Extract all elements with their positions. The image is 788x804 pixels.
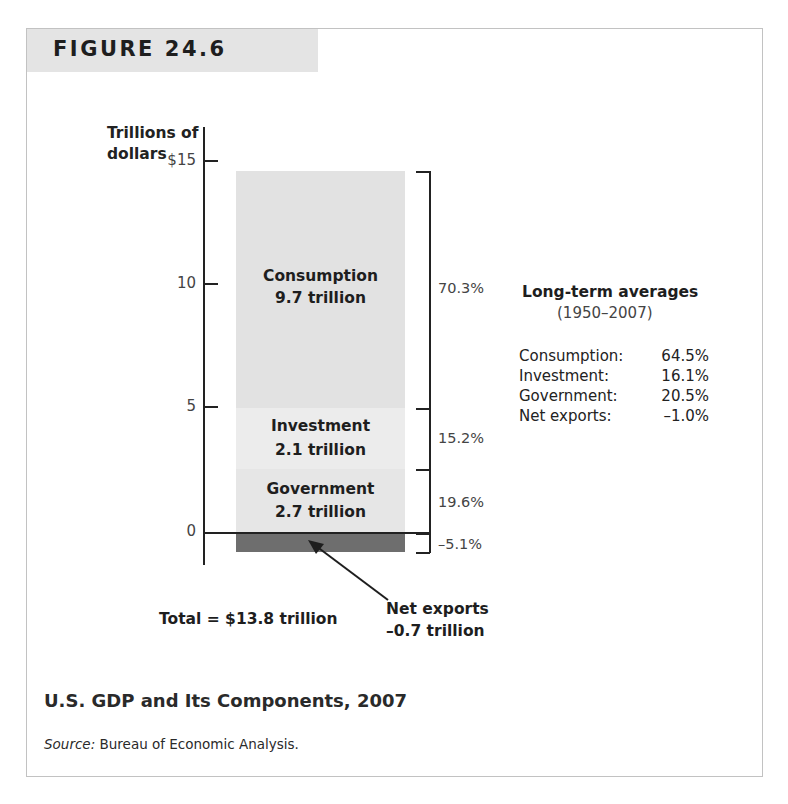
source-text: Bureau of Economic Analysis. xyxy=(95,736,299,752)
long-term-row-name: Consumption: xyxy=(519,346,637,366)
long-term-row: Net exports: –1.0% xyxy=(519,406,709,426)
long-term-row-name: Investment: xyxy=(519,366,637,386)
net-exports-annotation: Net exports –0.7 trillion xyxy=(386,598,489,642)
long-term-table: Consumption: 64.5% Investment: 16.1% Gov… xyxy=(519,346,709,426)
bar-segment-investment: Investment 2.1 trillion xyxy=(236,408,405,469)
long-term-row-value: 64.5% xyxy=(637,346,709,366)
long-term-row: Investment: 16.1% xyxy=(519,366,709,386)
y-tick-10 xyxy=(203,283,218,285)
government-value: 2.7 trillion xyxy=(236,501,405,523)
total-label: Total = $13.8 trillion xyxy=(159,610,338,628)
consumption-name: Consumption xyxy=(236,265,405,287)
bracket-tick-top xyxy=(416,171,430,173)
pct-net-exports: –5.1% xyxy=(438,536,482,552)
bracket-tick-zero xyxy=(416,533,430,535)
pct-government: 19.6% xyxy=(438,494,484,510)
y-tick-label-10: 10 xyxy=(146,274,196,292)
source-prefix: Source: xyxy=(44,736,95,752)
long-term-row-value: 16.1% xyxy=(637,366,709,386)
long-term-row-name: Net exports: xyxy=(519,406,637,426)
pct-consumption: 70.3% xyxy=(438,280,484,296)
investment-value: 2.1 trillion xyxy=(236,439,405,461)
long-term-row: Consumption: 64.5% xyxy=(519,346,709,366)
net-exports-value: –0.7 trillion xyxy=(386,620,489,642)
y-tick-15 xyxy=(203,160,218,162)
long-term-row-value: 20.5% xyxy=(637,386,709,406)
long-term-row: Government: 20.5% xyxy=(519,386,709,406)
figure-caption: U.S. GDP and Its Components, 2007 xyxy=(44,690,407,711)
y-axis-label-line1: Trillions of xyxy=(107,123,198,144)
long-term-period: (1950–2007) xyxy=(557,304,653,322)
long-term-row-name: Government: xyxy=(519,386,637,406)
share-bracket-line xyxy=(429,171,431,553)
long-term-title: Long-term averages xyxy=(522,283,698,301)
consumption-value: 9.7 trillion xyxy=(236,287,405,309)
figure-label: FIGURE 24.6 xyxy=(53,37,227,61)
bracket-tick-investment xyxy=(416,408,430,410)
long-term-row-value: –1.0% xyxy=(637,406,709,426)
y-tick-label-0: 0 xyxy=(146,522,196,540)
government-name: Government xyxy=(236,478,405,500)
bracket-tick-government xyxy=(416,469,430,471)
y-axis-line xyxy=(203,127,205,565)
y-tick-label-15: $15 xyxy=(146,151,196,169)
figure-source: Source: Bureau of Economic Analysis. xyxy=(44,736,299,752)
bar-segment-government: Government 2.7 trillion xyxy=(236,469,405,533)
bracket-tick-bottom xyxy=(416,552,430,554)
y-tick-5 xyxy=(203,406,218,408)
investment-name: Investment xyxy=(236,415,405,437)
pct-investment: 15.2% xyxy=(438,430,484,446)
net-exports-name: Net exports xyxy=(386,598,489,620)
bar-segment-consumption: Consumption 9.7 trillion xyxy=(236,171,405,408)
figure-header: FIGURE 24.6 xyxy=(27,29,318,72)
y-tick-label-5: 5 xyxy=(146,397,196,415)
